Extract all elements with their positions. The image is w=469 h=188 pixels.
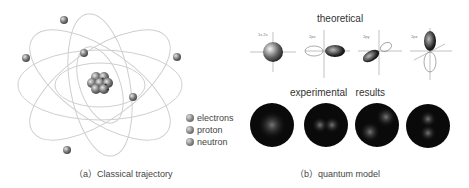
electron [63, 146, 71, 154]
orbital-label-s: 1s 2s [258, 32, 268, 37]
exp-px [304, 103, 348, 147]
proton-icon [186, 126, 194, 134]
theoretical-title: theoretical [317, 13, 363, 24]
caption-a: （a）Classical trajectory [74, 167, 173, 180]
orbital-s [250, 32, 296, 72]
electron [173, 53, 181, 61]
orbital-label-px: 2px [309, 34, 315, 39]
electron [22, 54, 30, 62]
electron [129, 93, 137, 101]
exp-py [355, 103, 399, 147]
exp-s [250, 103, 294, 147]
caption-b: （b）quantum model [295, 167, 380, 180]
orbital-label-py: 2py [363, 34, 369, 39]
legend-proton: proton [186, 125, 223, 135]
svg-text:+: + [106, 86, 110, 92]
nucleus: + + + [87, 72, 113, 94]
electron [60, 16, 68, 24]
electron-icon [186, 114, 194, 122]
electron [80, 49, 88, 57]
legend-electrons: electrons [186, 113, 234, 123]
exp-pz [406, 104, 450, 148]
neutron-icon [186, 138, 194, 146]
classical-atom-diagram: + + + [0, 0, 469, 188]
orbital-label-pz: 2pz [411, 34, 417, 39]
experimental-title: experimental results [290, 87, 385, 98]
legend-neutron: neutron [186, 137, 228, 147]
